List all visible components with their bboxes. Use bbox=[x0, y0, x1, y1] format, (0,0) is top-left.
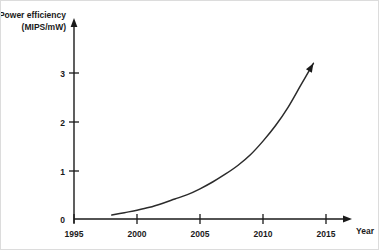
y-axis-title-line1: Power efficiency bbox=[1, 10, 66, 20]
y-tick-label-1: 1 bbox=[60, 167, 65, 177]
curve-arrow-icon bbox=[306, 63, 313, 72]
x-axis-title: Year bbox=[356, 226, 375, 236]
x-tick-label-2010: 2010 bbox=[254, 229, 273, 239]
data-curve-power-efficiency bbox=[112, 63, 314, 215]
x-tick-label-2005: 2005 bbox=[191, 229, 210, 239]
y-tick-label-2: 2 bbox=[60, 118, 65, 128]
x-tick-label-1995: 1995 bbox=[65, 229, 84, 239]
x-tick-label-2015: 2015 bbox=[317, 229, 336, 239]
y-tick-label-0: 0 bbox=[60, 215, 65, 225]
x-tick-label-2000: 2000 bbox=[128, 229, 147, 239]
chart-figure: Power efficiency (MIPS/mW) 3 2 1 0 1995 … bbox=[0, 0, 379, 250]
y-tick-label-3: 3 bbox=[60, 69, 65, 79]
x-axis-arrow-icon bbox=[343, 216, 352, 223]
y-axis-arrow-icon bbox=[71, 18, 78, 27]
y-axis-title-line2: (MIPS/mW) bbox=[22, 22, 67, 32]
power-efficiency-line-chart: Power efficiency (MIPS/mW) 3 2 1 0 1995 … bbox=[1, 1, 379, 250]
